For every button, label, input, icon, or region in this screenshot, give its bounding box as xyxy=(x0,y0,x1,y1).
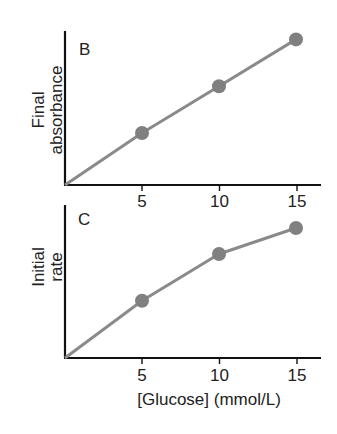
x-tick-label: 15 xyxy=(288,366,307,385)
series-line xyxy=(65,228,296,358)
data-point xyxy=(212,79,226,93)
y-axis-title: Initial xyxy=(29,247,48,287)
data-point xyxy=(135,294,149,308)
panel-label: B xyxy=(79,40,90,59)
x-tick-label: 5 xyxy=(137,192,146,211)
x-tick-label: 5 xyxy=(137,366,146,385)
figure: 51015BFinalabsorbance 51015CInitialrate[… xyxy=(0,0,337,434)
x-tick-label: 15 xyxy=(288,192,307,211)
x-axis-title: [Glucose] (mmol/L) xyxy=(137,390,281,409)
y-axis-title: Final xyxy=(29,92,48,129)
data-point xyxy=(212,247,226,261)
y-axis-title: rate xyxy=(47,252,66,281)
series-line xyxy=(65,39,296,185)
data-point xyxy=(289,221,303,235)
panel-b: 51015BFinalabsorbance xyxy=(29,31,321,211)
panel-label: C xyxy=(78,210,90,229)
panel-c: 51015CInitialrate[Glucose] (mmol/L) xyxy=(29,205,321,409)
data-point xyxy=(289,32,303,46)
y-axis-title: absorbance xyxy=(47,66,66,155)
data-point xyxy=(135,126,149,140)
x-tick-label: 10 xyxy=(210,366,229,385)
x-tick-label: 10 xyxy=(210,192,229,211)
